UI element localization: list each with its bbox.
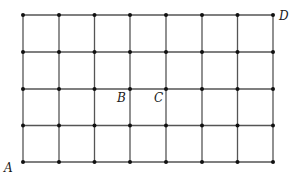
grid-point <box>164 124 168 128</box>
grid-point <box>200 87 204 91</box>
grid-point <box>236 50 240 54</box>
grid-point <box>128 50 132 54</box>
grid-point <box>271 124 275 128</box>
grid-point <box>93 160 97 164</box>
grid-point <box>57 124 61 128</box>
grid-point <box>57 87 61 91</box>
grid-point <box>21 160 25 164</box>
grid-point <box>200 50 204 54</box>
grid-point <box>128 13 132 17</box>
grid-point <box>200 124 204 128</box>
grid-point <box>236 13 240 17</box>
grid-point <box>200 13 204 17</box>
grid-point <box>236 124 240 128</box>
grid-point <box>93 124 97 128</box>
grid-point <box>236 87 240 91</box>
grid-point <box>21 13 25 17</box>
grid-point <box>164 160 168 164</box>
grid-point <box>128 124 132 128</box>
grid-point <box>271 160 275 164</box>
grid-point <box>164 87 168 91</box>
grid-point <box>128 160 132 164</box>
grid-point <box>200 160 204 164</box>
grid-point <box>93 50 97 54</box>
grid-point <box>21 124 25 128</box>
label-b: B <box>116 91 126 105</box>
grid-point <box>21 50 25 54</box>
label-d: D <box>278 9 289 23</box>
grid-point <box>57 160 61 164</box>
grid-point <box>57 13 61 17</box>
grid-point <box>164 50 168 54</box>
grid-point <box>93 87 97 91</box>
grid-point <box>164 13 168 17</box>
grid-point <box>57 50 61 54</box>
label-a: A <box>3 161 13 175</box>
grid-point <box>271 50 275 54</box>
label-c: C <box>154 91 163 105</box>
grid-point <box>236 160 240 164</box>
lattice-grid-diagram: A B C D <box>0 0 295 177</box>
grid-point <box>271 13 275 17</box>
grid-point <box>271 87 275 91</box>
point-labels: A B C D <box>3 9 289 175</box>
grid-point <box>128 87 132 91</box>
grid-point <box>93 13 97 17</box>
grid-point <box>21 87 25 91</box>
